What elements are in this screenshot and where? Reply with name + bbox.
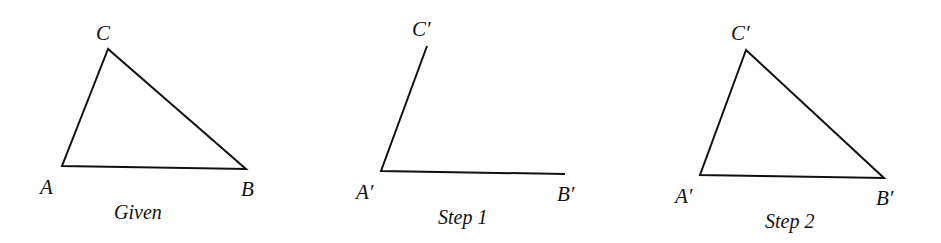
vertex-label-b: B xyxy=(241,177,254,201)
figure-step-1: C′ A′ B′ Step 1 xyxy=(354,17,575,229)
vertex-label-b-prime: B′ xyxy=(876,186,894,210)
triangle-abc xyxy=(62,49,246,169)
vertex-label-a: A xyxy=(38,175,53,199)
vertex-label-a-prime: A′ xyxy=(673,184,693,208)
caption-step-2: Step 2 xyxy=(765,210,814,233)
vertex-label-c-prime: C′ xyxy=(412,17,431,41)
figure-step-2: C′ A′ B′ Step 2 xyxy=(673,21,894,233)
triangle-construction-diagram: C A B Given C′ A′ B′ Step 1 C′ A′ B′ Ste… xyxy=(0,0,941,243)
caption-step-1: Step 1 xyxy=(438,206,487,229)
angle-c-a-b xyxy=(381,46,565,174)
caption-given: Given xyxy=(114,201,162,223)
vertex-label-a-prime: A′ xyxy=(354,180,374,204)
vertex-label-c: C xyxy=(96,21,111,45)
figure-given: C A B Given xyxy=(38,21,254,223)
triangle-a-prime-b-prime-c-prime xyxy=(700,50,884,178)
vertex-label-c-prime: C′ xyxy=(731,21,750,45)
vertex-label-b-prime: B′ xyxy=(557,182,575,206)
